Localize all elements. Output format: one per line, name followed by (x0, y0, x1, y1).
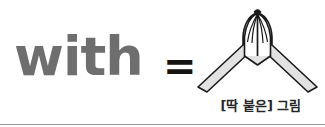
headword-with: with (14, 27, 164, 87)
equals-operator: = (163, 46, 191, 86)
bottom-divider (0, 124, 325, 125)
illustration-caption: [딱 붙은] 그림 (205, 97, 317, 115)
figure-root: with = [딱 붙은] 그림 (0, 0, 325, 127)
pressed-palms-hands-icon (193, 4, 323, 98)
